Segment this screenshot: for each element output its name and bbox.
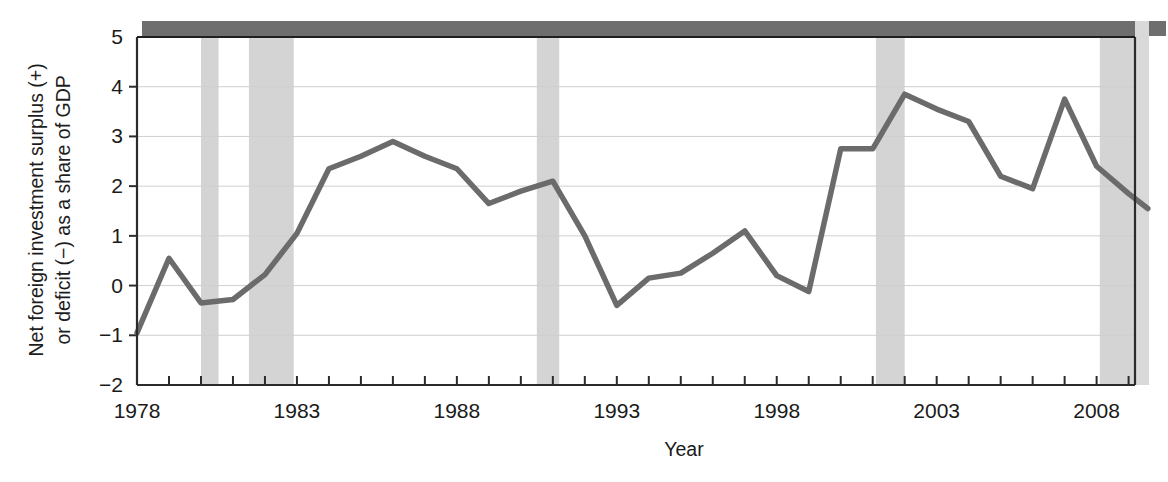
- top-dark-band: [142, 21, 1166, 36]
- chart-plot-area: [0, 0, 1168, 482]
- recession-band: [876, 37, 905, 385]
- recession-band: [537, 37, 559, 385]
- recession-band: [201, 37, 219, 385]
- recession-band: [249, 37, 294, 385]
- chart-figure: Net foreign investment surplus (+) or de…: [0, 0, 1168, 482]
- recession-band: [1100, 37, 1135, 385]
